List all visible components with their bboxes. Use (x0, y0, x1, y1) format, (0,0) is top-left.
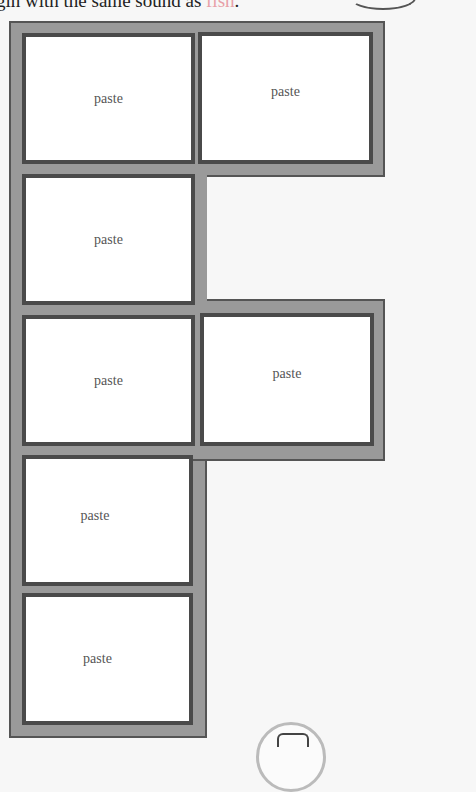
paste-cell-r4c1[interactable]: paste (22, 455, 193, 586)
paste-label: paste (94, 373, 123, 389)
instruction-suffix: . (235, 0, 240, 11)
paste-cell-r2c1[interactable]: paste (22, 174, 195, 305)
circle-icon (256, 722, 326, 792)
paste-cell-r1c1[interactable]: paste (22, 33, 195, 164)
paste-cell-r1c2[interactable]: paste (198, 32, 373, 164)
paste-label: paste (94, 91, 123, 107)
paste-label: paste (83, 651, 112, 667)
paste-label: paste (271, 84, 300, 100)
fish-illustration-icon (350, 0, 416, 10)
paste-cell-r5c1[interactable]: paste (22, 593, 193, 725)
glyph-icon (277, 733, 309, 747)
instruction-text: gin with the same sound as fish. (0, 0, 239, 12)
paste-label: paste (273, 366, 302, 382)
paste-cell-r3c2[interactable]: paste (200, 313, 374, 446)
paste-cell-r3c1[interactable]: paste (22, 315, 195, 446)
paste-label: paste (81, 508, 110, 524)
instruction-keyword: fish (206, 0, 235, 11)
instruction-prefix: gin with the same sound as (0, 0, 206, 11)
paste-label: paste (94, 232, 123, 248)
